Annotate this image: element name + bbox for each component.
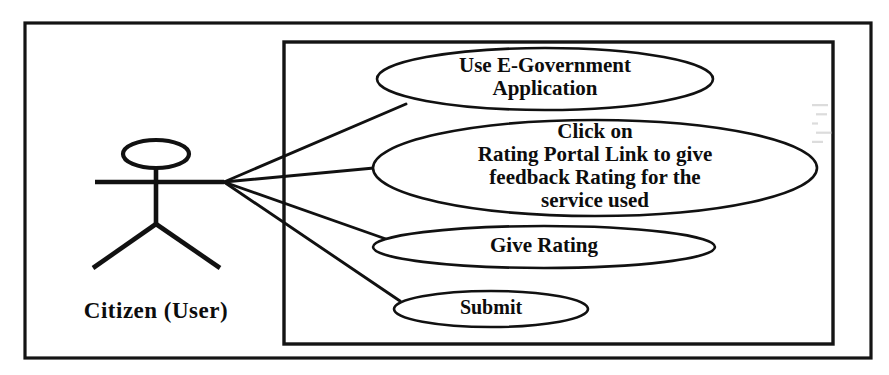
actor-to-click-on-rating-portal-link[interactable] <box>224 168 374 182</box>
use-case-submit[interactable]: Submit <box>394 291 588 327</box>
smudge-line <box>812 122 818 124</box>
use-case-label-click-on-rating-portal-link-line-4: service used <box>541 188 649 212</box>
actor-head-icon <box>123 140 189 168</box>
smudge-line <box>816 113 827 115</box>
diagram-canvas: Use E-GovernmentApplicationClick onRatin… <box>0 0 889 375</box>
smudge-line <box>812 104 828 106</box>
use-case-group: Use E-GovernmentApplicationClick onRatin… <box>373 48 817 327</box>
smudge-line <box>816 132 832 134</box>
association-lines-group <box>224 104 406 301</box>
use-case-give-rating[interactable]: Give Rating <box>373 226 715 268</box>
use-case-label-use-e-government-application-line-1: Use E-Government <box>459 53 631 77</box>
use-case-click-on-rating-portal-link[interactable]: Click onRating Portal Link to givefeedba… <box>373 119 817 216</box>
use-case-diagram: Use E-GovernmentApplicationClick onRatin… <box>0 0 889 375</box>
actor-citizen-user[interactable]: Citizen (User) <box>84 140 228 323</box>
actor-to-give-rating[interactable] <box>224 182 386 239</box>
use-case-label-give-rating-line-1: Give Rating <box>490 233 598 257</box>
use-case-label-click-on-rating-portal-link-line-2: Rating Portal Link to give <box>478 142 713 166</box>
scan-artifact-group <box>812 104 832 143</box>
use-case-label-use-e-government-application-line-2: Application <box>492 76 597 100</box>
use-case-use-e-government-application[interactable]: Use E-GovernmentApplication <box>377 48 713 110</box>
use-case-label-click-on-rating-portal-link-line-3: feedback Rating for the <box>489 165 700 189</box>
use-case-label-submit-line-1: Submit <box>460 296 523 318</box>
actor-leg-left <box>93 224 156 268</box>
scan-smudge-mark <box>812 104 832 143</box>
use-case-label-click-on-rating-portal-link-line-1: Click on <box>557 119 633 143</box>
actor-label: Citizen (User) <box>84 298 228 323</box>
actor-leg-right <box>156 224 220 268</box>
smudge-line <box>812 141 823 143</box>
actor-to-submit[interactable] <box>224 182 400 301</box>
